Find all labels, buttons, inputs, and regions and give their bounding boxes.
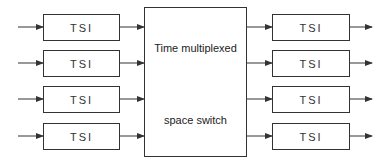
input-tsi-box-2: TSI: [43, 50, 120, 77]
output-tsi-box-2: TSI: [272, 50, 350, 77]
input-tsi-box-1: TSI: [43, 14, 120, 41]
switch-label-line1: Time multiplexed: [145, 42, 246, 54]
tsi-label: TSI: [299, 94, 322, 106]
tsi-label: TSI: [70, 94, 93, 106]
space-switch-box: Time multiplexed space switch: [144, 7, 247, 157]
tsi-label: TSI: [70, 22, 93, 34]
input-arrows: [18, 27, 43, 136]
input-tsi-box-4: TSI: [43, 123, 120, 150]
tsi-label: TSI: [70, 58, 93, 70]
tsi-label: TSI: [70, 131, 93, 143]
tsi-to-switch-arrows: [119, 27, 144, 136]
output-tsi-box-1: TSI: [272, 14, 350, 41]
tsi-label: TSI: [299, 131, 322, 143]
tsi-label: TSI: [299, 22, 322, 34]
input-tsi-box-3: TSI: [43, 86, 120, 113]
output-arrows: [349, 27, 372, 136]
switch-label-line2: space switch: [145, 114, 246, 126]
output-tsi-box-4: TSI: [272, 123, 350, 150]
switch-to-tsi-arrows: [246, 27, 272, 136]
output-tsi-box-3: TSI: [272, 86, 350, 113]
tsi-label: TSI: [299, 58, 322, 70]
